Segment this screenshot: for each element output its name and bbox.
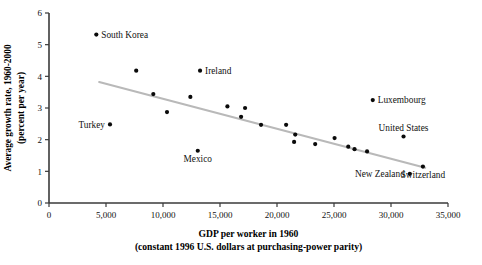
x-tick-label: 25,000 bbox=[322, 210, 347, 220]
point-label-mexico: Mexico bbox=[184, 154, 213, 164]
data-point bbox=[239, 115, 243, 119]
y-tick-label: 0 bbox=[38, 198, 43, 208]
y-axis-title-line1: Average growth rate, 1960-2000 bbox=[3, 44, 13, 172]
data-point bbox=[332, 136, 336, 140]
x-tick-label: 10,000 bbox=[151, 210, 176, 220]
data-point bbox=[188, 95, 192, 99]
data-point-mexico bbox=[196, 149, 200, 153]
point-label-ireland: Ireland bbox=[205, 66, 232, 76]
y-tick-label: 5 bbox=[38, 40, 43, 50]
y-tick-label: 6 bbox=[38, 8, 43, 18]
point-label-new-zealand: New Zealand bbox=[355, 169, 405, 179]
data-point bbox=[365, 149, 369, 153]
data-point-turkey bbox=[108, 122, 112, 126]
y-tick-label: 1 bbox=[38, 167, 43, 177]
point-label-luxembourg: Luxembourg bbox=[378, 95, 426, 105]
data-point bbox=[293, 133, 297, 137]
y-axis-title-line2: (percent per year) bbox=[16, 72, 27, 144]
y-tick-label: 3 bbox=[38, 103, 43, 113]
data-point bbox=[151, 92, 155, 96]
data-point bbox=[259, 123, 263, 127]
x-tick-label: 0 bbox=[47, 210, 52, 220]
x-tick-label: 5,000 bbox=[96, 210, 117, 220]
point-label-united-states: United States bbox=[379, 123, 429, 133]
x-axis-title: GDP per worker in 1960 bbox=[199, 228, 299, 239]
data-point-luxembourg bbox=[371, 98, 375, 102]
y-tick-label: 4 bbox=[38, 72, 43, 82]
data-point-south-korea bbox=[94, 32, 98, 36]
point-label-turkey: Turkey bbox=[78, 120, 105, 130]
y-tick-label: 2 bbox=[38, 135, 43, 145]
data-point bbox=[313, 142, 317, 146]
data-point-united-states bbox=[401, 134, 405, 138]
data-point bbox=[243, 106, 247, 110]
point-label-switzerland: Switzerland bbox=[401, 170, 446, 180]
chart-canvas: 012345605,00010,00015,00020,00025,00030,… bbox=[0, 0, 482, 265]
x-axis-subtitle: (constant 1996 U.S. dollars at purchasin… bbox=[135, 241, 362, 253]
data-point bbox=[165, 110, 169, 114]
data-point-switzerland bbox=[421, 164, 425, 168]
data-point bbox=[134, 69, 138, 73]
data-point bbox=[225, 104, 229, 108]
data-point bbox=[352, 147, 356, 151]
point-label-south-korea: South Korea bbox=[101, 30, 148, 40]
x-tick-label: 15,000 bbox=[208, 210, 233, 220]
x-tick-label: 20,000 bbox=[265, 210, 290, 220]
data-point bbox=[346, 145, 350, 149]
x-tick-label: 30,000 bbox=[379, 210, 404, 220]
data-point bbox=[284, 123, 288, 127]
data-point bbox=[292, 140, 296, 144]
data-point-ireland bbox=[198, 69, 202, 73]
x-tick-label: 35,000 bbox=[436, 210, 461, 220]
scatter-chart: 012345605,00010,00015,00020,00025,00030,… bbox=[0, 0, 482, 265]
